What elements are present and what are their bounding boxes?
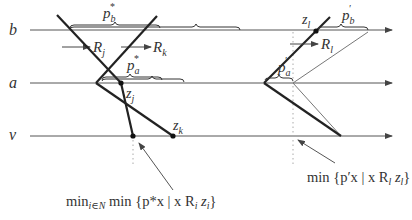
axis-label-a: a: [9, 74, 17, 91]
brace-pb-prime: [318, 24, 368, 30]
annotation-arrow-right: [298, 140, 335, 163]
budget-line-upper: [293, 32, 368, 83]
label-zj: zj: [125, 86, 134, 104]
label-pb-prime: pb′: [341, 3, 355, 26]
label-pa-star: pa*: [126, 53, 140, 76]
annotation-arrow-left: [139, 143, 173, 190]
indifference-line-k-lower: [96, 83, 173, 136]
label-zl: zl: [301, 12, 310, 30]
formula-left: mini∈N min {p*x | x Ri zi}: [66, 193, 216, 211]
indifference-line-l-lower: [264, 83, 341, 136]
axis-label-b: b: [9, 21, 17, 38]
diagram-canvas: b a v pb* Rj Rk pa* zj zk mini∈N min {p*…: [0, 0, 412, 220]
label-Rk: Rk: [152, 39, 167, 58]
axis-label-v: v: [9, 126, 17, 143]
formula-right: min {p′x | x Rl zl}: [307, 169, 410, 187]
label-zk: zk: [172, 118, 183, 136]
point-zk: [170, 133, 175, 138]
point-min-left: [130, 133, 135, 138]
point-zl: [313, 28, 318, 33]
label-pb-star: pb*: [102, 1, 116, 24]
label-Rl: Rl: [320, 36, 333, 55]
point-zj: [118, 80, 123, 85]
budget-line-lower: [293, 83, 341, 136]
